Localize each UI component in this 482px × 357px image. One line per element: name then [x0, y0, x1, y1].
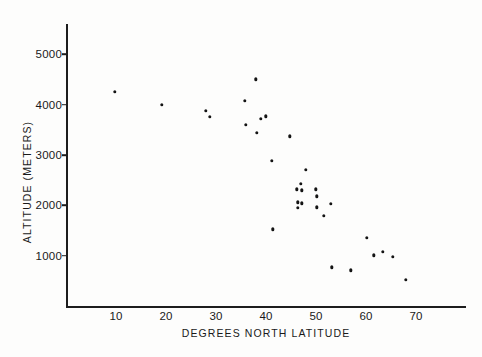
data-point [295, 187, 298, 190]
data-point [208, 115, 211, 118]
y-tick-label: 4000 [36, 99, 62, 111]
data-point [315, 206, 318, 209]
data-point [314, 187, 317, 190]
data-point [365, 236, 368, 239]
data-point [391, 255, 394, 258]
y-tick-label: 2000 [36, 199, 62, 211]
scatter-chart-figure: 10002000300040005000 10203040506070 ALTI… [0, 0, 482, 357]
y-axis-title: ALTITUDE (METERS) [21, 107, 33, 257]
data-point [322, 214, 325, 217]
y-tick-label: 5000 [36, 48, 62, 60]
data-point [304, 168, 307, 171]
data-point [404, 278, 407, 281]
data-point [330, 266, 333, 269]
data-point [264, 114, 267, 117]
data-point [204, 109, 207, 112]
data-point [270, 159, 273, 162]
plot-area [66, 24, 466, 305]
data-point [271, 228, 274, 231]
y-tick-label: 1000 [36, 250, 62, 262]
data-point [349, 269, 352, 272]
data-point [160, 103, 163, 106]
x-axis-title: DEGREES NORTH LATITUDE [66, 327, 466, 339]
x-tick-label: 40 [259, 310, 272, 322]
data-point [315, 195, 318, 198]
data-point [259, 117, 262, 120]
x-tick-label: 50 [309, 310, 322, 322]
x-tick-label: 20 [159, 310, 172, 322]
data-point [329, 202, 332, 205]
x-tick-label: 70 [409, 310, 422, 322]
data-point [296, 201, 299, 204]
data-point [299, 182, 302, 185]
data-point [288, 135, 291, 138]
data-point [255, 131, 258, 134]
data-point [372, 253, 375, 256]
data-point [296, 206, 299, 209]
x-tick-label: 60 [359, 310, 372, 322]
data-point [243, 99, 246, 102]
data-point [300, 202, 303, 205]
data-point [381, 250, 384, 253]
x-tick-label: 10 [109, 310, 122, 322]
data-point [300, 188, 303, 191]
data-point [244, 123, 247, 126]
data-point [254, 78, 257, 81]
x-tick-label: 30 [209, 310, 222, 322]
y-tick-label: 3000 [36, 149, 62, 161]
x-axis-line [66, 306, 466, 308]
data-point [113, 90, 116, 93]
